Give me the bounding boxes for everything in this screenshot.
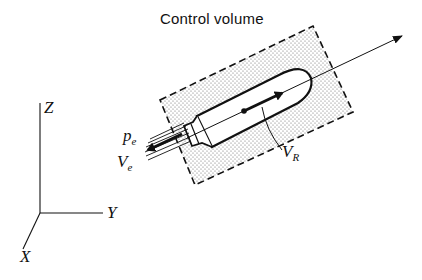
exit-pressure-label: pe <box>123 126 136 147</box>
z-axis-label: Z <box>44 98 53 118</box>
y-axis-label: Y <box>107 203 116 223</box>
exhaust-velocity-label: Ve <box>117 152 132 173</box>
x-axis-label: X <box>20 247 30 267</box>
coordinate-axes <box>23 103 103 249</box>
rocket-control-volume-diagram: Control volume pe Ve VR Z Y X <box>0 0 422 280</box>
control-volume-label: Control volume <box>160 10 264 27</box>
diagram-canvas <box>0 0 422 280</box>
rocket-velocity-label: VR <box>282 142 299 163</box>
